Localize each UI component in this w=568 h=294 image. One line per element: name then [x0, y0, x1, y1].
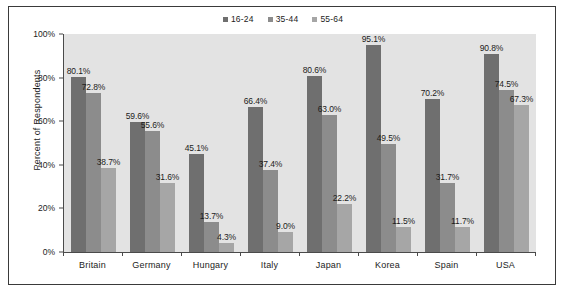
- x-tick-label-usa: USA: [496, 260, 515, 270]
- bar-value-label: 31.6%: [156, 172, 180, 182]
- bar[interactable]: 66.4%: [248, 107, 263, 252]
- bar[interactable]: 55.6%: [145, 131, 160, 252]
- x-tick-label-hungary: Hungary: [193, 260, 228, 270]
- x-tick-mark: [63, 252, 64, 256]
- chart-figure: 16-2435-4455-64 Percent of Respondents 0…: [0, 0, 568, 294]
- bar-group: 59.6%55.6%31.6%: [123, 34, 182, 252]
- bar[interactable]: 38.7%: [101, 168, 116, 252]
- bar-value-label: 37.4%: [259, 159, 283, 169]
- chart-frame: 16-2435-4455-64 Percent of Respondents 0…: [8, 6, 556, 285]
- legend-swatch-icon: [268, 17, 273, 22]
- bar[interactable]: 49.5%: [381, 144, 396, 252]
- bar-value-label: 95.1%: [362, 34, 386, 44]
- bar-value-label: 4.3%: [217, 232, 236, 242]
- x-tick-mark: [535, 252, 536, 256]
- y-tick-label: 60%: [38, 116, 55, 126]
- bar[interactable]: 9.0%: [278, 232, 293, 252]
- legend-swatch-icon: [223, 17, 228, 22]
- bar-value-label: 13.7%: [200, 211, 224, 221]
- legend-label: 16-24: [231, 15, 254, 24]
- bar-value-label: 72.8%: [82, 82, 106, 92]
- bar-value-label: 67.3%: [510, 94, 534, 104]
- bar[interactable]: 22.2%: [337, 204, 352, 252]
- bar-value-label: 22.2%: [333, 193, 357, 203]
- x-tick-mark: [299, 252, 300, 256]
- bar[interactable]: 63.0%: [322, 115, 337, 252]
- legend-entry-55-64[interactable]: 55-64: [312, 15, 343, 24]
- bar[interactable]: 74.5%: [499, 90, 514, 252]
- bar-group: 66.4%37.4%9.0%: [241, 34, 300, 252]
- x-tick-label-spain: Spain: [434, 260, 458, 270]
- bar-value-label: 63.0%: [318, 104, 342, 114]
- y-tick-label: 20%: [38, 203, 55, 213]
- bar-group: 80.1%72.8%38.7%: [64, 34, 123, 252]
- x-tick-mark: [181, 252, 182, 256]
- x-tick-label-italy: Italy: [261, 260, 279, 270]
- bar-value-label: 31.7%: [436, 172, 460, 182]
- bar[interactable]: 95.1%: [366, 45, 381, 252]
- bar-value-label: 45.1%: [185, 143, 209, 153]
- bar-value-label: 80.6%: [303, 65, 327, 75]
- bar-value-label: 49.5%: [377, 133, 401, 143]
- bar-value-label: 38.7%: [97, 157, 121, 167]
- bar[interactable]: 80.6%: [307, 76, 322, 252]
- bar[interactable]: 11.5%: [396, 227, 411, 252]
- x-tick-label-germany: Germany: [132, 260, 170, 270]
- bar[interactable]: 11.7%: [455, 227, 470, 253]
- bar-group: 95.1%49.5%11.5%: [359, 34, 418, 252]
- x-tick-mark: [417, 252, 418, 256]
- x-tick-label-japan: Japan: [316, 260, 342, 270]
- bar[interactable]: 67.3%: [514, 105, 529, 252]
- chart-legend: 16-2435-4455-64: [9, 15, 557, 24]
- bar[interactable]: 59.6%: [130, 122, 145, 252]
- bar[interactable]: 31.6%: [160, 183, 175, 252]
- x-tick-mark: [122, 252, 123, 256]
- y-axis-ticks: 0%20%40%60%80%100%: [23, 34, 59, 252]
- bar-group: 45.1%13.7%4.3%: [182, 34, 241, 252]
- plot-area: 80.1%72.8%38.7%59.6%55.6%31.6%45.1%13.7%…: [63, 34, 536, 253]
- bar[interactable]: 80.1%: [71, 77, 86, 252]
- x-tick-label-korea: Korea: [375, 260, 400, 270]
- legend-entry-16-24[interactable]: 16-24: [223, 15, 254, 24]
- bar-value-label: 11.7%: [451, 216, 474, 226]
- legend-swatch-icon: [312, 17, 317, 22]
- legend-entry-35-44[interactable]: 35-44: [268, 15, 299, 24]
- bar-value-label: 9.0%: [276, 221, 295, 231]
- bar-value-label: 66.4%: [244, 96, 268, 106]
- y-tick-label: 0%: [43, 247, 55, 257]
- legend-label: 55-64: [320, 15, 343, 24]
- bar[interactable]: 45.1%: [189, 154, 204, 252]
- x-tick-mark: [358, 252, 359, 256]
- y-tick-label: 100%: [33, 29, 55, 39]
- y-tick-label: 80%: [38, 73, 55, 83]
- bar-value-label: 11.5%: [392, 216, 415, 226]
- x-tick-mark: [240, 252, 241, 256]
- bar-value-label: 70.2%: [421, 88, 445, 98]
- bar-group: 70.2%31.7%11.7%: [418, 34, 477, 252]
- legend-label: 35-44: [276, 15, 299, 24]
- x-tick-mark: [476, 252, 477, 256]
- bar-value-label: 55.6%: [141, 120, 165, 130]
- bar[interactable]: 4.3%: [219, 243, 234, 252]
- bar-group: 80.6%63.0%22.2%: [300, 34, 359, 252]
- bar[interactable]: 37.4%: [263, 170, 278, 252]
- bar[interactable]: 72.8%: [86, 93, 101, 252]
- bar-value-label: 80.1%: [67, 66, 91, 76]
- bar-value-label: 74.5%: [495, 79, 519, 89]
- x-tick-label-britain: Britain: [79, 260, 106, 270]
- bar-value-label: 90.8%: [480, 43, 504, 53]
- y-tick-label: 40%: [38, 160, 55, 170]
- bar-group: 90.8%74.5%67.3%: [477, 34, 536, 252]
- x-axis-ticks: BritainGermanyHungaryItalyJapanKoreaSpai…: [63, 252, 536, 276]
